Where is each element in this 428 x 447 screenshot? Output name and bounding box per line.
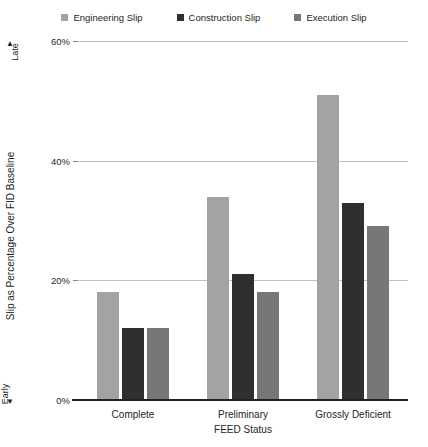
y-axis-tick-label: 40% [51, 155, 70, 166]
bar-chart: Engineering Slip Construction Slip Execu… [0, 0, 428, 447]
y-axis-late-label: Late [10, 43, 20, 61]
bar[interactable] [342, 203, 364, 400]
y-axis-title-wrap: Slip as Percentage Over FID Baseline [2, 136, 18, 336]
bar-group: Preliminary [207, 41, 279, 400]
y-axis-tick-label: 0% [56, 395, 70, 406]
y-axis-late-marker: ▲ Late [2, 40, 18, 100]
y-axis-tick-label: 20% [51, 275, 70, 286]
bar[interactable] [317, 95, 339, 400]
arrow-down-icon: ▼ [6, 398, 14, 406]
x-axis-tick-label: Complete [112, 409, 155, 420]
bar[interactable] [207, 197, 229, 400]
y-axis-tick-mark [73, 41, 78, 42]
bar[interactable] [122, 328, 144, 400]
y-axis-tick-mark [73, 161, 78, 162]
bar[interactable] [257, 292, 279, 400]
x-axis-title: FEED Status [78, 424, 408, 435]
legend-item-construction-slip[interactable]: Construction Slip [177, 12, 261, 23]
bar[interactable] [232, 274, 254, 400]
square-swatch-icon [61, 14, 68, 21]
x-axis-line [72, 399, 408, 401]
legend-item-label: Execution Slip [306, 12, 366, 23]
y-axis-tick-mark [73, 280, 78, 281]
y-axis-tick-label: 60% [51, 36, 70, 47]
chart-legend: Engineering Slip Construction Slip Execu… [0, 8, 428, 26]
legend-item-execution-slip[interactable]: Execution Slip [294, 12, 366, 23]
legend-item-label: Engineering Slip [73, 12, 142, 23]
bar[interactable] [97, 292, 119, 400]
legend-item-label: Construction Slip [189, 12, 261, 23]
square-swatch-icon [177, 14, 184, 21]
plot-area: 0%20%40%60% CompletePreliminaryGrossly D… [78, 41, 408, 400]
square-swatch-icon [294, 14, 301, 21]
bar-group: Complete [97, 41, 169, 400]
y-axis-early-marker: Early ▼ [2, 344, 18, 406]
y-axis-label-band: ▲ Late Slip as Percentage Over FID Basel… [2, 36, 18, 406]
bar-group: Grossly Deficient [317, 41, 389, 400]
y-axis-title: Slip as Percentage Over FID Baseline [5, 152, 16, 320]
x-axis-tick-label: Preliminary [218, 409, 268, 420]
x-axis-tick-label: Grossly Deficient [315, 409, 391, 420]
bar[interactable] [147, 328, 169, 400]
legend-item-engineering-slip[interactable]: Engineering Slip [61, 12, 142, 23]
bar[interactable] [367, 226, 389, 400]
